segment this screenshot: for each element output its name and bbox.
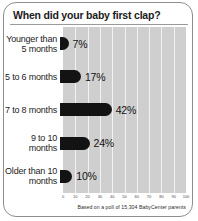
bar-value-label: 42% [116,104,136,116]
page-title: When did your baby first clap? [13,9,185,21]
bar [60,170,72,183]
category-label: 7 to 8 months [4,105,60,115]
x-axis-tick-label: 30 [98,194,102,199]
bar-value-label: 17% [85,71,105,83]
chart-card: When did your baby first clap? Younger t… [3,2,193,217]
bar-track: 42% [60,93,194,126]
bar-row: 9 to 10 months24% [4,127,194,160]
chart-footnote: Based on a poll of 15,304 BabyCenter par… [4,204,186,210]
x-axis-tick-label: 40 [110,194,114,199]
x-axis-tick-label: 20 [85,194,89,199]
category-label: 9 to 10 months [4,133,60,153]
x-axis-tick-label: 80 [159,194,163,199]
x-axis-tick-label: 100 [183,194,190,199]
bar [60,103,112,116]
bar [60,37,69,50]
x-axis: 0102030405060708090100 [63,194,186,202]
x-axis-tick-label: 60 [135,194,139,199]
x-axis-tick-label: 90 [171,194,175,199]
category-label: Older than 10 months [4,166,60,186]
bar-track: 10% [60,160,194,193]
bar-track: 24% [60,127,194,160]
bar-value-label: 24% [94,137,114,149]
bar-rows: Younger than 5 months7%5 to 6 months17%7… [4,27,194,193]
category-label: Younger than 5 months [4,34,60,54]
x-axis-tick-label: 0 [62,194,64,199]
bar [60,70,81,83]
bar-value-label: 7% [73,38,88,50]
x-axis-tick-label: 70 [147,194,151,199]
bar-track: 7% [60,27,194,60]
category-label: 5 to 6 months [4,72,60,82]
bar-track: 17% [60,60,194,93]
bar-row: Older than 10 months10% [4,160,194,193]
bar [60,137,90,150]
x-axis-tick-label: 10 [73,194,77,199]
x-axis-tick-label: 50 [122,194,126,199]
bar-row: 5 to 6 months17% [4,60,194,93]
bar-row: Younger than 5 months7% [4,27,194,60]
bar-value-label: 10% [76,170,96,182]
bar-chart: Younger than 5 months7%5 to 6 months17%7… [4,25,194,217]
bar-row: 7 to 8 months42% [4,93,194,126]
